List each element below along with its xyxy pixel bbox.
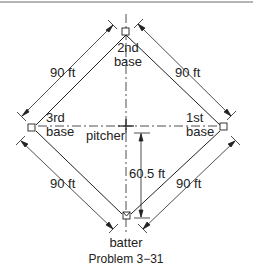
- second-base-marker: [122, 28, 129, 35]
- batter-label: batter: [109, 235, 143, 250]
- side-third-home: [36, 131, 122, 214]
- dim-label-first-home: 90 ft: [176, 176, 202, 191]
- figure-caption: Problem 3−31: [88, 252, 163, 266]
- third-base-label-line1: 3rd: [46, 110, 65, 125]
- dim-label-second-first: 90 ft: [175, 65, 201, 80]
- first-base-marker: [220, 123, 227, 130]
- dim-label-third-home: 90 ft: [50, 176, 76, 191]
- third-base-marker: [28, 124, 35, 131]
- second-base-label-line2: base: [114, 54, 142, 69]
- third-base-label-line2: base: [46, 124, 74, 139]
- dim-label-pitcher-home: 60.5 ft: [129, 166, 166, 181]
- first-base-label-line2: base: [186, 124, 214, 139]
- side-second-first: [126, 35, 220, 125]
- second-base-label-line1: 2nd: [117, 40, 139, 55]
- pitcher-label: pitcher: [86, 128, 126, 143]
- first-base-label-line1: 1st: [186, 110, 204, 125]
- dim-label-third-second: 90 ft: [50, 65, 76, 80]
- baseball-diamond-diagram: 2nd base 3rd base 1st base pitcher 90 ft…: [0, 0, 253, 267]
